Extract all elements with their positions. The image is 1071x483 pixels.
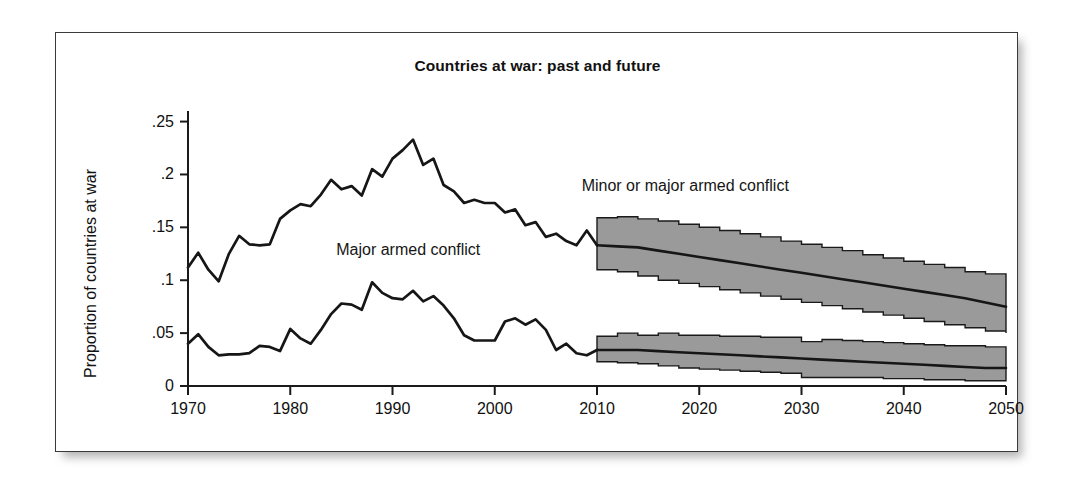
x-tick-label: 2030: [784, 400, 820, 418]
x-tick-label: 2000: [477, 400, 513, 418]
confidence-bands-group: [597, 217, 1006, 381]
y-tick-label: .1: [161, 271, 174, 289]
x-tick-label: 2020: [681, 400, 717, 418]
chart-svg: [56, 33, 1019, 453]
x-tick-label: 1990: [375, 400, 411, 418]
y-tick-label: .15: [152, 218, 174, 236]
figure-frame: Countries at war: past and future Propor…: [55, 32, 1018, 452]
confidence-band-major: [597, 333, 1006, 381]
y-tick-label: .25: [152, 113, 174, 131]
chart-plot-area: Countries at war: past and future Propor…: [56, 33, 1019, 453]
x-tick-label: 2010: [579, 400, 615, 418]
x-tick-label: 2040: [886, 400, 922, 418]
x-tick-label: 2050: [988, 400, 1024, 418]
y-tick-label: .05: [152, 324, 174, 342]
y-tick-label: .2: [161, 165, 174, 183]
confidence-band-minor-or-major: [597, 217, 1006, 333]
screenshot-page: Countries at war: past and future Propor…: [0, 0, 1071, 483]
line-major-historical: [188, 282, 597, 355]
x-tick-label: 1980: [272, 400, 308, 418]
x-tick-label: 1970: [170, 400, 206, 418]
y-tick-label: 0: [165, 377, 174, 395]
line-minor-or-major-historical: [188, 140, 597, 282]
annotation-major: Major armed conflict: [336, 241, 480, 259]
annotation-minor-or-major: Minor or major armed conflict: [582, 177, 789, 195]
